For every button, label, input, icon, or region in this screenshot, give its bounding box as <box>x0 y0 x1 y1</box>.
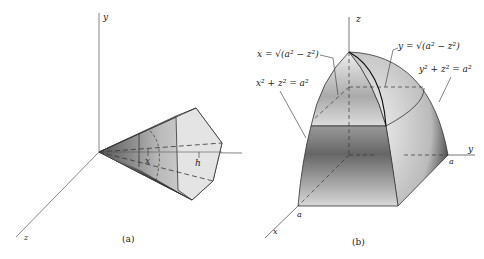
caption-b: (b) <box>352 237 365 247</box>
figure-a: y z x h (a) <box>16 12 242 244</box>
axis-label-y: y <box>102 12 109 22</box>
axis-label-x-b: x <box>273 227 278 236</box>
label-eq-circle-xz: x² + z² = a² <box>256 78 309 88</box>
label-x-var: x <box>145 156 150 166</box>
label-eq-circle-yz: y² + z² = a² <box>418 64 472 74</box>
surface-x2-z2 <box>298 126 398 206</box>
axis-label-z-b: z <box>355 14 361 24</box>
label-eq-x-sqrt: x = √(a² − z²) <box>257 49 319 59</box>
label-h: h <box>195 158 201 168</box>
figure-canvas: y z x h (a) z y x x <box>0 0 484 259</box>
caption-a: (a) <box>122 234 134 244</box>
axis-label-z: z <box>23 233 29 242</box>
label-eq-y-sqrt: y = √(a² − z²) <box>397 41 460 51</box>
axis-label-y-b: y <box>467 144 474 154</box>
z-axis-a <box>16 152 99 237</box>
label-a-x: a <box>297 210 302 219</box>
label-a-y: a <box>449 157 454 166</box>
figure-b: z y x x = √(a² − z²) x² + z² = a² y = √(… <box>256 14 475 247</box>
x-axis-b <box>265 206 298 238</box>
